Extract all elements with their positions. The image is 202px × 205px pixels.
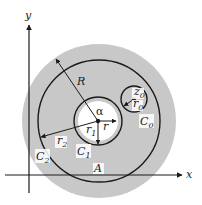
center-alpha-point: [96, 119, 100, 123]
y-axis-label: y: [24, 9, 32, 22]
label-r: r: [103, 120, 109, 133]
annulus-diagram: y x R α r r1 r2 z0 r0 C0 C1 C2 A: [0, 0, 202, 205]
x-axis-label: x: [186, 168, 193, 181]
label-R: R: [76, 75, 85, 88]
label-A: A: [93, 162, 102, 175]
label-alpha: α: [96, 105, 104, 118]
